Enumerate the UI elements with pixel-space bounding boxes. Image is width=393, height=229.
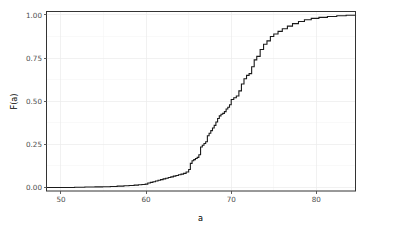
x-axis-tick-labels: 50607080	[56, 195, 321, 204]
ecdf-plot-svg: 50607080 0.000.250.500.751.00 a F(a)	[0, 0, 393, 229]
y-axis-tick-labels: 0.000.250.500.751.00	[26, 11, 42, 193]
x-tick-label: 70	[227, 195, 237, 204]
y-axis-title: F(a)	[9, 93, 19, 109]
y-tick-label: 0.50	[26, 97, 42, 106]
x-axis-title: a	[198, 213, 203, 223]
ecdf-chart-figure: 50607080 0.000.250.500.751.00 a F(a)	[0, 0, 393, 229]
x-tick-label: 50	[56, 195, 66, 204]
y-tick-label: 0.75	[26, 54, 42, 63]
y-tick-label: 1.00	[26, 11, 42, 20]
y-tick-label: 0.25	[26, 140, 42, 149]
x-tick-label: 60	[142, 195, 152, 204]
y-tick-label: 0.00	[26, 183, 42, 192]
x-tick-label: 80	[312, 195, 322, 204]
